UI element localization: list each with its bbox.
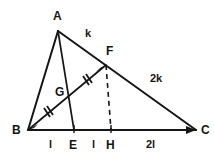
vertex-label-a: A xyxy=(53,10,62,22)
segment-label-fc: 2k xyxy=(150,73,162,84)
segment-label-be: l xyxy=(49,139,52,150)
segment-label-af: k xyxy=(85,28,91,39)
vertex-label-c: C xyxy=(201,124,210,136)
segment-label-hc: 2l xyxy=(146,139,155,150)
cevian-ae xyxy=(58,31,74,130)
segment-label-eh: l xyxy=(92,139,95,150)
vertex-label-f: F xyxy=(106,45,113,57)
cevian-bf xyxy=(28,65,106,130)
altitude-fh xyxy=(106,65,111,130)
vertex-label-b: B xyxy=(12,124,21,136)
vertex-label-g: G xyxy=(55,86,64,98)
geometry-figure: A B C F G E H k 2k l l 2l xyxy=(0,0,214,162)
edge-ab xyxy=(28,31,58,130)
edge-ac xyxy=(58,31,196,130)
vertex-label-e: E xyxy=(69,139,77,151)
vertex-label-h: H xyxy=(106,139,115,151)
